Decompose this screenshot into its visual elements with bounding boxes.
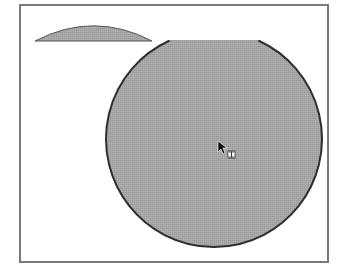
drawing-canvas[interactable] <box>0 0 339 275</box>
move-handle-icon <box>228 151 235 158</box>
canvas[interactable] <box>0 0 339 275</box>
clipped-circle-shape[interactable] <box>106 41 322 247</box>
cut-circle-cap[interactable] <box>35 26 152 41</box>
